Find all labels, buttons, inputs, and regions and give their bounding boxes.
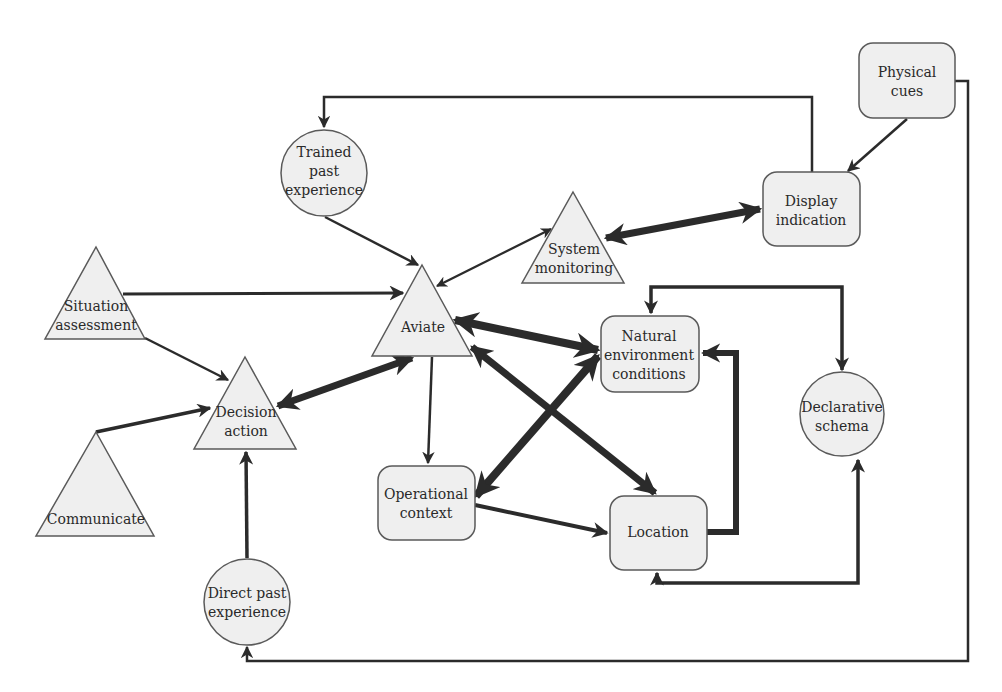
node-label-line: Location: [627, 524, 688, 540]
edge-system-display: [606, 209, 760, 238]
node-label-line: monitoring: [535, 260, 613, 276]
node-shape-rounded-rect: [378, 466, 475, 540]
node-label-line: past: [309, 163, 339, 179]
node-label-line: context: [400, 505, 453, 521]
node-physical-cues[interactable]: Physical cues: [859, 43, 955, 118]
node-label-line: Aviate: [400, 319, 445, 335]
node-label-line: System: [548, 241, 600, 257]
node-operational-context[interactable]: Operational context: [378, 466, 475, 540]
node-label-line: indication: [776, 212, 847, 228]
node-trained-past-experience[interactable]: Trained past experience: [281, 130, 367, 216]
node-label-line: Situation: [64, 298, 129, 314]
node-declarative-schema[interactable]: Declarative schema: [800, 372, 884, 456]
node-direct-past-experience[interactable]: Direct past experience: [204, 559, 290, 645]
edge-aviate-natural: [455, 320, 598, 350]
node-label-line: experience: [285, 182, 363, 198]
node-label-line: conditions: [612, 366, 685, 382]
node-label-line: Display: [785, 193, 838, 209]
edge-trained-to-aviate: [325, 217, 418, 265]
node-communicate[interactable]: Communicate: [36, 432, 154, 536]
node-shape-rounded-rect: [859, 43, 955, 118]
node-natural-environment-conditions[interactable]: Natural environment conditions: [601, 316, 699, 392]
diagram-canvas: Trained past experience Physical cues Di…: [0, 0, 1002, 692]
node-location[interactable]: Location: [610, 496, 707, 570]
node-shape-triangle: [372, 265, 472, 356]
node-shape-circle: [204, 559, 290, 645]
edge-aviate-decision: [278, 358, 412, 406]
node-label-line: Trained: [296, 144, 351, 160]
edge-operational-natural: [476, 356, 598, 496]
edge-situation-to-decision: [145, 338, 228, 380]
node-shape-rounded-rect: [763, 172, 860, 246]
node-label-line: action: [224, 423, 268, 439]
edge-location-to-natural: [703, 353, 736, 532]
node-label-line: schema: [815, 418, 869, 434]
node-label-line: Direct past: [208, 585, 287, 601]
node-label-line: Decision: [216, 404, 277, 420]
node-label-line: Communicate: [47, 511, 145, 527]
node-label-line: Declarative: [801, 399, 883, 415]
node-label-line: environment: [604, 347, 694, 363]
edge-situation-to-aviate: [123, 293, 403, 294]
edge-communicate-to-decision: [96, 408, 210, 432]
node-label-line: assessment: [55, 317, 137, 333]
node-aviate[interactable]: Aviate: [372, 265, 472, 356]
node-label-line: cues: [891, 83, 923, 99]
node-label-line: Operational: [384, 486, 469, 502]
node-label-line: Natural: [622, 328, 677, 344]
edge-physical-to-display: [848, 119, 907, 171]
node-label-line: experience: [208, 604, 286, 620]
node-display-indication[interactable]: Display indication: [763, 172, 860, 246]
edge-aviate-to-operational: [428, 357, 432, 463]
node-label-line: Physical: [878, 64, 937, 80]
edge-display-to-trained: [324, 97, 812, 172]
edge-operational-to-location: [475, 505, 607, 533]
edge-direct-to-decision: [246, 452, 247, 558]
